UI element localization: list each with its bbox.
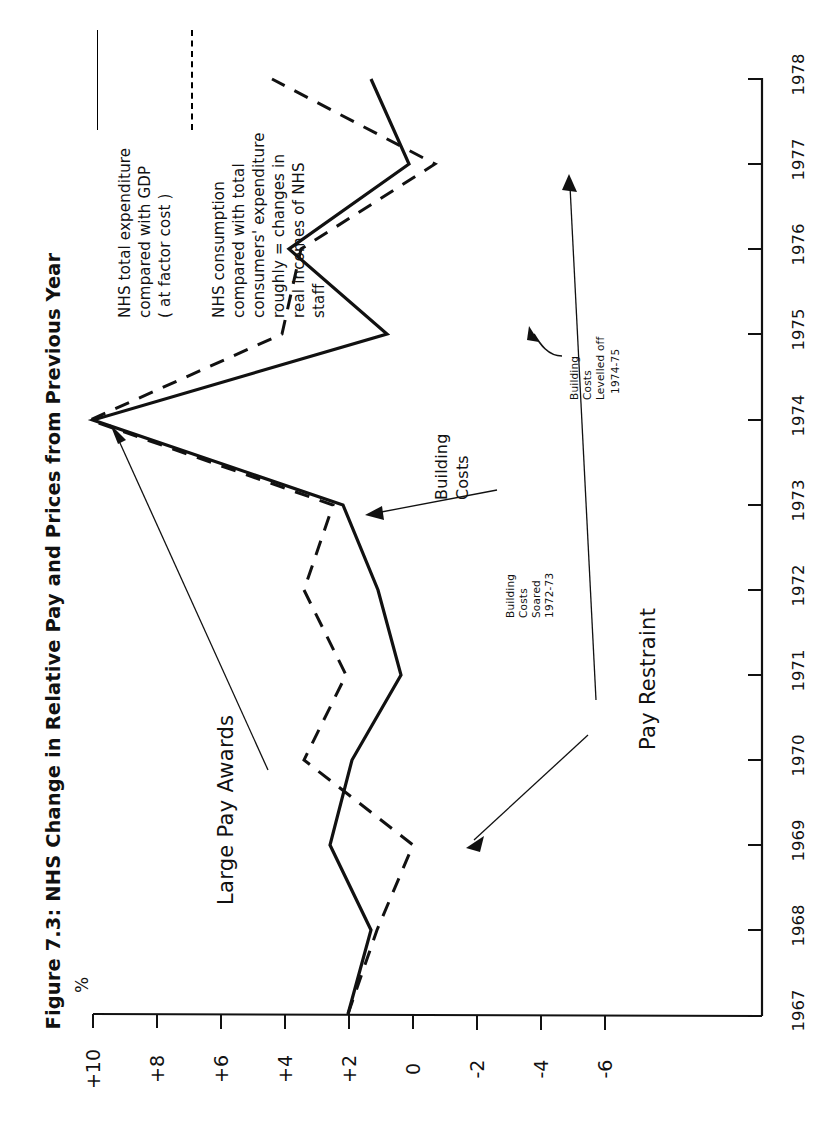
annotation-building-costs-levelled-line-1: Costs (581, 370, 593, 400)
annotation-building-costs-soared-line-1: Costs (517, 588, 529, 618)
plot-area (0, 0, 834, 1122)
year-tick-1967: 1967 (789, 985, 808, 1037)
year-tick-1976: 1976 (789, 219, 808, 271)
percent-tick-2: +6 (210, 1046, 232, 1092)
percent-tick-0: +10 (82, 1046, 104, 1092)
series-solid-nhs-total-expenditure (93, 79, 409, 1014)
arrowhead-pay-restraint-second (562, 174, 577, 192)
annotation-building-costs-levelled-line-3: 1974-75 (609, 349, 621, 394)
leader-pay-restraint (474, 735, 588, 840)
year-tick-1970: 1970 (789, 730, 808, 782)
year-tick-1973: 1973 (789, 475, 808, 527)
year-tick-1971: 1971 (789, 645, 808, 697)
annotation-large-pay-awards: Large Pay Awards (214, 715, 238, 905)
percent-tick-7: -4 (530, 1046, 552, 1092)
year-tick-1977: 1977 (789, 134, 808, 186)
percent-tick-8: -6 (594, 1046, 616, 1092)
arrowhead-building-costs (365, 506, 384, 520)
percent-tick-4: +2 (338, 1046, 360, 1092)
percent-tick-6: -2 (466, 1046, 488, 1092)
chart-figure: Figure 7.3: NHS Change in Relative Pay a… (0, 0, 834, 1122)
annotation-building-costs-levelled-line-2: Levelled off (594, 337, 606, 400)
leader-large-pay-awards (115, 432, 268, 770)
percent-tick-5: 0 (402, 1046, 424, 1092)
percent-tick-1: +8 (146, 1046, 168, 1092)
year-tick-1969: 1969 (789, 815, 808, 867)
leader-pay-restraint-second (570, 186, 596, 700)
leader-building-costs-levelled-off (534, 334, 562, 356)
year-tick-1974: 1974 (789, 390, 808, 442)
annotation-pay-restraint: Pay Restraint (636, 608, 660, 750)
annotation-building-costs-soared-line-0: Building (504, 574, 516, 618)
year-tick-1975: 1975 (789, 304, 808, 356)
annotation-building-costs-levelled-line-0: Building (568, 356, 580, 400)
annotation-building-costs-line-0: Building (432, 433, 452, 500)
year-tick-1972: 1972 (789, 560, 808, 612)
percent-tick-3: +4 (274, 1046, 296, 1092)
annotation-building-costs-line-1: Costs (453, 455, 473, 500)
year-axis-ticks (748, 79, 762, 1016)
annotation-building-costs-soared-line-3: 1972-73 (543, 573, 555, 618)
percent-axis (93, 1014, 762, 1016)
year-tick-1978: 1978 (789, 49, 808, 101)
annotation-building-costs-soared-line-2: Soared (530, 580, 542, 618)
arrowhead-building-costs-levelled-off (527, 326, 539, 342)
year-tick-1968: 1968 (789, 900, 808, 952)
series-dashed-nhs-consumption (90, 79, 435, 1014)
